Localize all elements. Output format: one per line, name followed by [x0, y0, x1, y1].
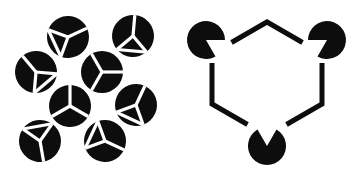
stimulus-svg: [0, 0, 356, 174]
disk-upper-left-arm-0: [36, 72, 57, 74]
figure-canvas: [0, 0, 356, 174]
disk-center: [81, 51, 123, 93]
